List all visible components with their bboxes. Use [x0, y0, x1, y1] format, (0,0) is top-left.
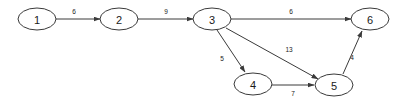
node-label-5: 5: [331, 80, 337, 92]
node-label-3: 3: [209, 14, 215, 26]
node-label-6: 6: [367, 14, 373, 26]
edge-5-to-6: [343, 31, 362, 74]
edge-3-to-5: [226, 28, 318, 79]
node-label-4: 4: [250, 79, 256, 91]
graph-diagram: 123456 69651374: [0, 0, 400, 103]
node-label-1: 1: [34, 14, 40, 26]
node-1[interactable]: 1: [18, 8, 56, 30]
edge-weight-4-5: 7: [291, 90, 295, 97]
edge-weight-2-3: 9: [164, 8, 168, 15]
edge-weight-3-5: 13: [285, 46, 293, 53]
node-6[interactable]: 6: [351, 8, 389, 30]
node-label-2: 2: [116, 14, 122, 26]
node-4[interactable]: 4: [234, 73, 272, 95]
edge-weight-3-6: 6: [289, 8, 293, 15]
edge-weight-5-6: 4: [350, 54, 354, 61]
node-5[interactable]: 5: [315, 74, 353, 96]
node-3[interactable]: 3: [193, 8, 231, 30]
node-2[interactable]: 2: [100, 8, 138, 30]
nodes-layer: 123456: [18, 8, 389, 96]
edge-weight-1-2: 6: [72, 8, 76, 15]
edge-weight-3-4: 5: [220, 55, 224, 62]
